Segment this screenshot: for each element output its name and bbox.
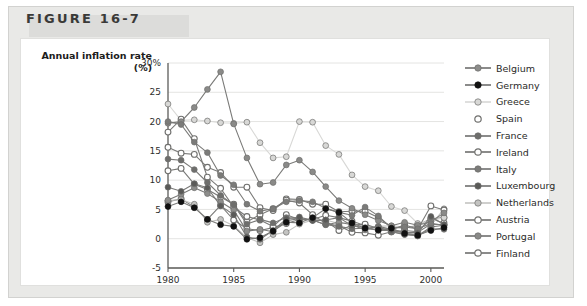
data-point	[165, 156, 171, 162]
data-point	[191, 181, 197, 187]
data-point	[283, 154, 289, 160]
data-point	[402, 231, 408, 237]
data-point	[244, 221, 250, 227]
data-point	[218, 173, 224, 179]
legend-item-portugal[interactable]: Portugal	[464, 228, 576, 245]
legend-marker	[475, 116, 481, 122]
legend-marker	[475, 250, 481, 256]
legend-item-belgium[interactable]: Belgium	[464, 60, 576, 77]
data-point	[297, 157, 303, 163]
data-point	[283, 229, 289, 235]
legend-label: Luxembourg	[496, 180, 555, 191]
data-point	[389, 225, 395, 231]
data-point	[205, 217, 211, 223]
data-point	[283, 199, 289, 205]
legend-swatch-austria	[464, 214, 492, 226]
data-point	[362, 204, 368, 210]
data-point	[257, 217, 263, 223]
data-point	[257, 235, 263, 241]
legend-item-austria[interactable]: Austria	[464, 211, 576, 228]
legend-label: Belgium	[496, 63, 535, 74]
data-point	[205, 87, 211, 93]
data-point	[191, 167, 197, 173]
data-point	[349, 212, 355, 218]
data-point	[362, 212, 368, 218]
data-point	[165, 119, 171, 125]
legend-item-finland[interactable]: Finland	[464, 245, 576, 262]
data-point	[231, 202, 237, 208]
data-point	[205, 150, 211, 156]
legend-label: Finland	[496, 248, 530, 259]
data-point	[375, 188, 381, 194]
data-point	[218, 185, 224, 191]
legend-swatch-spain	[464, 113, 492, 125]
data-point	[244, 119, 250, 125]
data-point	[323, 206, 329, 212]
data-point	[270, 228, 276, 234]
data-point	[297, 220, 303, 226]
legend-marker	[475, 65, 481, 71]
legend-marker	[475, 233, 481, 239]
x-tick-label: 1990	[288, 275, 311, 285]
data-point	[323, 143, 329, 149]
legend-item-netherlands[interactable]: Netherlands	[464, 194, 576, 211]
y-tick-label: 15	[150, 146, 161, 156]
data-point	[297, 214, 303, 220]
legend-label: Austria	[496, 214, 530, 225]
legend-item-ireland[interactable]: Ireland	[464, 144, 576, 161]
legend-item-italy[interactable]: Italy	[464, 161, 576, 178]
legend-item-luxembourg[interactable]: Luxembourg	[464, 178, 576, 195]
legend-item-greece[interactable]: Greece	[464, 94, 576, 111]
legend-label: Ireland	[496, 147, 529, 158]
data-point	[165, 184, 171, 190]
data-point	[270, 155, 276, 161]
data-point	[336, 152, 342, 158]
y-tick-label: 10	[150, 175, 162, 185]
legend-marker	[475, 149, 481, 155]
data-point	[428, 221, 434, 227]
data-point	[441, 210, 447, 216]
data-point	[191, 105, 197, 111]
data-point	[323, 184, 329, 190]
data-point	[205, 185, 211, 191]
data-point	[165, 168, 171, 174]
legend-swatch-ireland	[464, 146, 492, 158]
data-point	[362, 225, 368, 231]
data-point	[283, 162, 289, 168]
data-point	[178, 188, 184, 194]
y-tick-label: 30%	[141, 58, 161, 68]
legend-swatch-belgium	[464, 62, 492, 74]
data-point	[244, 201, 250, 207]
data-point	[178, 150, 184, 156]
data-point	[441, 225, 447, 231]
legend-marker	[475, 166, 481, 172]
legend-label: Germany	[496, 80, 540, 91]
x-tick-label: 1985	[222, 275, 245, 285]
data-point	[218, 222, 224, 228]
data-point	[165, 204, 171, 210]
data-point	[205, 174, 211, 180]
legend-swatch-finland	[464, 247, 492, 259]
data-point	[402, 224, 408, 230]
data-point	[205, 118, 211, 124]
data-point	[231, 212, 237, 218]
data-point	[244, 214, 250, 220]
legend-swatch-france	[464, 130, 492, 142]
data-point	[231, 182, 237, 188]
legend-label: Italy	[496, 164, 517, 175]
data-point	[362, 184, 368, 190]
legend-marker	[475, 200, 481, 206]
x-tick-label: 1980	[157, 275, 180, 285]
data-point	[165, 197, 171, 203]
data-point	[218, 193, 224, 199]
legend-marker	[475, 82, 481, 88]
legend-item-france[interactable]: France	[464, 127, 576, 144]
y-tick-label: -5	[152, 263, 161, 273]
data-point	[336, 224, 342, 230]
data-point	[389, 204, 395, 210]
legend-item-germany[interactable]: Germany	[464, 77, 576, 94]
data-point	[402, 208, 408, 214]
legend-item-spain[interactable]: Spain	[464, 110, 576, 127]
data-point	[349, 172, 355, 178]
legend-marker	[475, 132, 481, 138]
